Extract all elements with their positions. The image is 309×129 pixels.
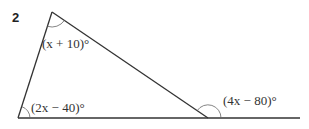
bottom-left-angle-arc	[22, 107, 30, 118]
top-angle-arc	[47, 20, 64, 27]
triangle-diagram: (x + 10)° (2x − 40)° (4x − 80)°	[0, 0, 309, 129]
exterior-angle-arc	[197, 105, 221, 118]
bottom-left-angle-label: (2x − 40)°	[31, 100, 85, 115]
exterior-angle-label: (4x − 80)°	[223, 93, 277, 108]
top-angle-label: (x + 10)°	[42, 36, 89, 51]
